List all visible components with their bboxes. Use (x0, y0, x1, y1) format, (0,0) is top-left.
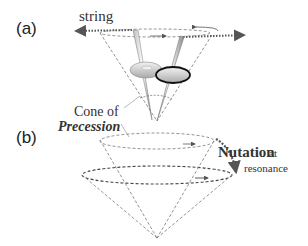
nutation-at: at (269, 147, 277, 159)
cone-label-line2: Precession (58, 119, 120, 134)
panel-b: (b) Nutation at resonance (16, 128, 288, 238)
cone-b (82, 133, 232, 238)
panel-a: (a) string Cone of Precession (16, 8, 244, 137)
panel-a-label: (a) (16, 19, 37, 38)
nutation-resonance: resonance (244, 162, 288, 174)
cone-label-leader-a (124, 96, 140, 108)
spinning-top-2 (156, 36, 190, 121)
precession-angle-arc (140, 95, 172, 99)
string-right-arrow (183, 35, 244, 37)
nutation-word: Nutation (218, 144, 275, 160)
panel-b-label: (b) (16, 128, 37, 147)
precession-nutation-diagram: (a) string Cone of Precession (0, 0, 308, 246)
string-left-arrow (76, 30, 132, 31)
string-label: string (79, 8, 114, 24)
cone-label-line1: Cone of (74, 104, 119, 119)
